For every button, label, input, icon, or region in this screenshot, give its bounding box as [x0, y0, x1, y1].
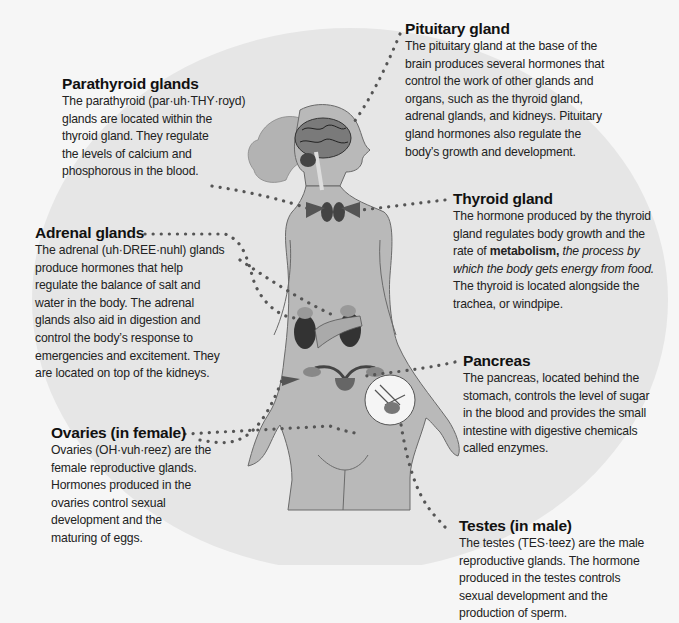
ovaries-line: ovaries control sexual — [51, 495, 211, 513]
ovaries-line: Hormones produced in the — [51, 477, 211, 495]
adrenal-line: are located on top of the kidneys. — [35, 365, 224, 383]
label-parathyroid: Parathyroid glands The parathyroid (par·… — [62, 75, 245, 181]
testes-line: production of sperm. — [459, 605, 644, 623]
ovaries-line: Ovaries (OH·vuh·reez) are the — [51, 442, 211, 460]
adrenal-line: produce hormones that help — [35, 260, 224, 278]
parathyroid-line: The parathyroid (par·uh·THY·royd) — [62, 93, 245, 111]
adrenal-line: control the body’s response to — [35, 330, 224, 348]
pancreas-line: The pancreas, located behind the — [463, 370, 649, 388]
adrenal-line: The adrenal (uh·DREE·nuhl) glands — [35, 242, 224, 260]
ovaries-title: Ovaries (in female) — [51, 424, 211, 442]
label-pancreas: Pancreas The pancreas, located behind th… — [463, 352, 649, 458]
pituitary-line: organs, such as the thyroid gland, — [405, 91, 604, 109]
pituitary-line: control the work of other glands and — [405, 73, 604, 91]
testes-title: Testes (in male) — [459, 517, 644, 535]
pituitary-line: adrenal glands, and kidneys. Pituitary — [405, 108, 604, 126]
testes-line: reproductive glands. The hormone — [459, 553, 644, 571]
parathyroid-line: glands are located within the — [62, 111, 245, 129]
thyroid-line3-prefix: rate of — [453, 244, 490, 258]
adrenal-line: regulate the balance of salt and — [35, 277, 224, 295]
thyroid-line: which the body gets energy from food. — [453, 261, 654, 279]
ovaries-line: development and the — [51, 512, 211, 530]
pituitary-line: The pituitary gland at the base of the — [405, 38, 604, 56]
pancreas-title: Pancreas — [463, 352, 649, 370]
term-metabolism: metabolism, — [490, 244, 559, 258]
label-adrenal: Adrenal glands The adrenal (uh·DREE·nuhl… — [35, 224, 224, 383]
thyroid-line: gland regulates body growth and the — [453, 226, 654, 244]
pancreas-line: intestine with digestive chemicals — [463, 423, 649, 441]
label-thyroid: Thyroid gland The hormone produced by th… — [453, 190, 654, 314]
thyroid-line: The hormone produced by the thyroid — [453, 208, 654, 226]
ovaries-line: maturing of eggs. — [51, 530, 211, 548]
parathyroid-title: Parathyroid glands — [62, 75, 245, 93]
parathyroid-line: phosphorous in the blood. — [62, 163, 245, 181]
adrenal-title: Adrenal glands — [35, 224, 224, 242]
label-pituitary: Pituitary gland The pituitary gland at t… — [405, 20, 604, 161]
parathyroid-line: the levels of calcium and — [62, 146, 245, 164]
testes-inset — [365, 375, 415, 425]
adrenal-line: water in the body. The adrenal — [35, 295, 224, 313]
testes-line: produced in the testes controls — [459, 570, 644, 588]
adrenal-line: glands also aid in digestion and — [35, 312, 224, 330]
thyroid-title: Thyroid gland — [453, 190, 654, 208]
pancreas-line: in the blood and provides the small — [463, 405, 649, 423]
thyroid-line: trachea, or windpipe. — [453, 296, 654, 314]
pituitary-line: brain produces several hormones that — [405, 56, 604, 74]
label-testes: Testes (in male) The testes (TES·teez) a… — [459, 517, 644, 623]
parathyroid-line: thyroid gland. They regulate — [62, 128, 245, 146]
adrenal-line: emergencies and excitement. They — [35, 348, 224, 366]
pituitary-title: Pituitary gland — [405, 20, 604, 38]
testes-line: sexual development and the — [459, 588, 644, 606]
definition-metabolism: the process by — [559, 244, 639, 258]
pancreas-line: called enzymes. — [463, 440, 649, 458]
testes-line: The testes (TES·teez) are the male — [459, 535, 644, 553]
pituitary-line: gland hormones also regulate the — [405, 126, 604, 144]
pancreas-line: stomach, controls the level of sugar — [463, 388, 649, 406]
thyroid-line: rate of metabolism, the process by — [453, 243, 654, 261]
label-ovaries: Ovaries (in female) Ovaries (OH·vuh·reez… — [51, 424, 211, 548]
thyroid-line: The thyroid is located alongside the — [453, 278, 654, 296]
ovaries-line: female reproductive glands. — [51, 460, 211, 478]
pituitary-line: body’s growth and development. — [405, 144, 604, 162]
